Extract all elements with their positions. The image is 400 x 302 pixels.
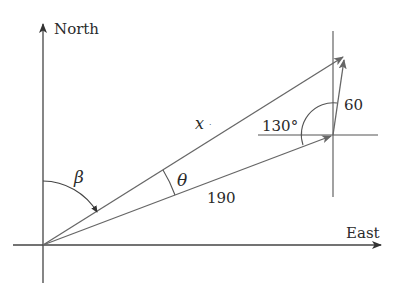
angle-130-arc bbox=[301, 103, 337, 145]
east-label: East bbox=[346, 224, 380, 242]
vector-x-resultant bbox=[43, 57, 343, 245]
resultant-dot: · bbox=[209, 120, 212, 129]
label-beta: β bbox=[73, 167, 84, 187]
vector-60 bbox=[333, 60, 344, 135]
vector-190 bbox=[43, 136, 331, 245]
vector-diagram: North East x · 190 60 130° β θ bbox=[0, 0, 400, 302]
label-60: 60 bbox=[344, 96, 363, 114]
label-130-degrees: 130° bbox=[262, 117, 298, 135]
beta-arc bbox=[43, 181, 97, 212]
label-190: 190 bbox=[207, 189, 236, 207]
resultant-x-label: x bbox=[195, 114, 204, 133]
theta-arc bbox=[163, 170, 175, 195]
label-theta: θ bbox=[177, 170, 187, 190]
north-label: North bbox=[54, 20, 99, 38]
